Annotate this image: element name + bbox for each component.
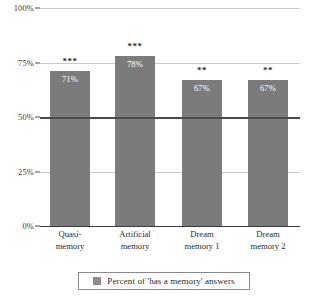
y-tick-label-75: 75% bbox=[18, 58, 34, 68]
bar-value-label-3: 67% bbox=[182, 83, 222, 93]
bar-value-label-2: 78% bbox=[115, 59, 155, 69]
reference-line-50 bbox=[40, 117, 300, 119]
y-axis: 100% 75% 50% 25% 0% bbox=[0, 0, 40, 300]
significance-marker-1: *** bbox=[50, 57, 90, 65]
y-tick-label-25: 25% bbox=[18, 167, 34, 177]
legend-swatch-icon bbox=[93, 277, 101, 285]
significance-marker-4: ** bbox=[248, 66, 288, 74]
x-tick-label-line1: Dream bbox=[190, 229, 213, 239]
chart-legend: Percent of 'has a memory' answers bbox=[78, 272, 250, 290]
significance-marker-3: ** bbox=[182, 66, 222, 74]
bar-value-label-1: 71% bbox=[50, 74, 90, 84]
x-tick-label-line2: memory bbox=[40, 241, 100, 253]
bar-dream-memory-2[interactable]: 67% bbox=[248, 80, 288, 226]
bar-quasi-memory[interactable]: 71% bbox=[50, 71, 90, 226]
bar-artificial-memory[interactable]: 78% bbox=[115, 56, 155, 226]
axis-baseline-0 bbox=[40, 226, 300, 227]
x-tick-label-line2: memory 2 bbox=[235, 241, 301, 253]
x-tick-label-quasi-memory: Quasi- memory bbox=[40, 229, 100, 252]
x-tick-label-dream-memory-1: Dream memory 1 bbox=[169, 229, 235, 252]
x-tick-label-line1: Dream bbox=[256, 229, 279, 239]
x-tick-label-line1: Artificial bbox=[119, 229, 151, 239]
bar-chart-figure: 100% 75% 50% 25% 0% *** 71% *** 78% bbox=[0, 0, 313, 300]
x-tick-label-artificial-memory: Artificial memory bbox=[105, 229, 165, 252]
y-tick-label-50: 50% bbox=[18, 112, 34, 122]
x-tick-label-dream-memory-2: Dream memory 2 bbox=[235, 229, 301, 252]
y-tick-label-100: 100% bbox=[14, 3, 34, 13]
bar-value-label-4: 67% bbox=[248, 83, 288, 93]
significance-marker-2: *** bbox=[115, 42, 155, 50]
x-axis: Quasi- memory Artificial memory Dream me… bbox=[40, 229, 300, 263]
plot-area: *** 71% *** 78% ** 67% ** 67 bbox=[40, 8, 300, 226]
x-tick-label-line1: Quasi- bbox=[59, 229, 82, 239]
legend-label: Percent of 'has a memory' answers bbox=[107, 276, 234, 286]
y-tick-label-0: 0% bbox=[22, 221, 34, 231]
bar-dream-memory-1[interactable]: 67% bbox=[182, 80, 222, 226]
x-tick-label-line2: memory bbox=[105, 241, 165, 253]
x-tick-label-line2: memory 1 bbox=[169, 241, 235, 253]
